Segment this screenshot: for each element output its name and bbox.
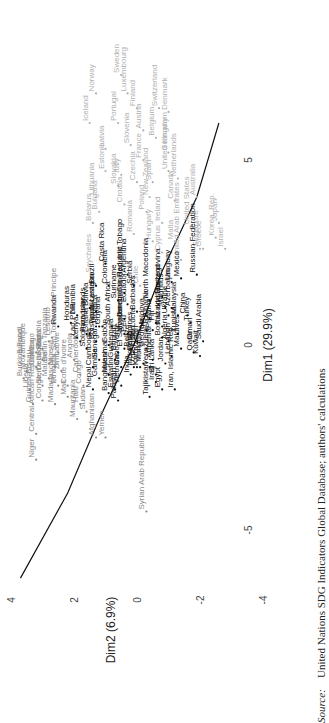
data-point	[117, 351, 119, 353]
data-point	[35, 459, 37, 461]
x-tick-label: 0	[243, 342, 254, 348]
point-label: Tajikistan	[141, 362, 150, 395]
axes: Dim1 (29.9%) Dim2 (6.9%) -4-2024-505	[6, 157, 275, 664]
data-point	[104, 170, 106, 172]
data-point	[180, 348, 182, 350]
data-point	[133, 233, 135, 235]
point-label: Jordan	[156, 337, 165, 361]
point-label: Iceland	[81, 95, 90, 121]
point-label: Spain	[144, 160, 153, 180]
x-tick-label: 5	[243, 157, 254, 163]
point-label: Nepal	[84, 366, 93, 387]
data-point	[196, 274, 198, 276]
point-label: Russian Federation	[188, 203, 197, 272]
biplot-chart: SwedenNorwayLuxembourgFinlandIcelandPort…	[0, 0, 329, 723]
data-point	[130, 374, 132, 376]
data-point	[92, 366, 94, 368]
data-point	[174, 388, 176, 390]
source-label: Source:	[315, 689, 327, 723]
point-label: Czechia	[128, 151, 137, 180]
y-tick-label: 2	[69, 597, 80, 603]
data-point	[202, 340, 204, 342]
data-point	[54, 403, 56, 405]
point-label: Denmark	[160, 76, 169, 109]
point-label: North Macedonia	[141, 237, 150, 298]
data-point	[95, 436, 97, 438]
data-point	[117, 399, 119, 401]
data-point	[142, 129, 144, 131]
point-label: Croatia	[115, 176, 124, 202]
data-point	[98, 377, 100, 379]
data-point	[218, 222, 220, 224]
data-point	[92, 222, 94, 224]
data-point	[60, 370, 62, 372]
point-label: Mauritania	[68, 379, 77, 417]
data-point	[104, 436, 106, 438]
data-point	[133, 366, 135, 368]
point-label: Afghanistan	[87, 393, 96, 435]
point-label: Poland	[137, 185, 146, 210]
point-label: Estonia	[97, 142, 106, 169]
point-label: Austria	[134, 103, 143, 128]
point-label: Colombia	[100, 249, 109, 283]
data-point	[48, 340, 50, 342]
point-label: Sudan	[78, 386, 87, 409]
data-point	[149, 196, 151, 198]
data-point	[145, 510, 147, 512]
data-point	[41, 399, 43, 401]
point-label: Norway	[87, 64, 96, 91]
point-label: Ireland	[153, 196, 162, 220]
y-tick-label: 0	[132, 597, 143, 603]
data-point	[199, 355, 201, 357]
point-label: Switzerland	[150, 65, 159, 106]
point-label: Bosnia and Herzegovina	[153, 248, 162, 336]
data-point	[89, 122, 91, 124]
plot-area: SwedenNorwayLuxembourgFinlandIcelandPort…	[15, 44, 227, 578]
data-point	[177, 333, 179, 335]
x-axis-label: Dim1 (29.9%)	[261, 308, 275, 381]
data-point	[120, 385, 122, 387]
data-point	[136, 181, 138, 183]
point-label: Lao PDR	[68, 303, 77, 336]
data-point	[120, 366, 122, 368]
source-note: Source: United Nations SDG Indicators Gl…	[315, 368, 327, 723]
point-label: Barbados	[128, 275, 137, 309]
point-label: Finland	[128, 80, 137, 106]
data-point	[202, 248, 204, 250]
data-point	[180, 277, 182, 279]
data-point	[193, 351, 195, 353]
point-label: South Africa	[103, 281, 112, 325]
data-point	[149, 396, 151, 398]
y-tick-label: -4	[258, 595, 269, 604]
point-label: Pakistan	[109, 368, 118, 399]
point-label: Bangladesh	[100, 349, 109, 391]
data-point	[57, 351, 59, 353]
point-label: Japan	[210, 199, 219, 221]
data-point	[196, 196, 198, 198]
point-label: Syrian Arab Republic	[137, 435, 146, 510]
point-label: Israel	[216, 227, 225, 247]
point-label: Slovenia	[122, 112, 131, 143]
x-tick-label: -5	[243, 525, 254, 534]
data-point	[117, 122, 119, 124]
point-label: Iran, Islamic Rep.	[166, 325, 175, 387]
point-label: Belarus	[84, 194, 93, 221]
data-point	[98, 211, 100, 213]
point-label: Central African Republic	[27, 346, 36, 432]
data-point	[155, 137, 157, 139]
data-point	[155, 381, 157, 383]
data-point	[224, 248, 226, 250]
point-label: Yemen	[97, 411, 106, 436]
data-point	[57, 385, 59, 387]
data-point	[95, 325, 97, 327]
data-point	[161, 388, 163, 390]
y-tick-label: -2	[195, 595, 206, 604]
data-point	[95, 92, 97, 94]
y-axis-label: Dim2 (6.9%)	[104, 597, 118, 664]
data-point	[136, 366, 138, 368]
point-label: Cyprus	[153, 225, 162, 250]
point-label: Mexico	[172, 251, 181, 277]
point-label: Romania	[125, 199, 134, 232]
data-point	[76, 418, 78, 420]
point-label: Niger	[27, 438, 36, 457]
